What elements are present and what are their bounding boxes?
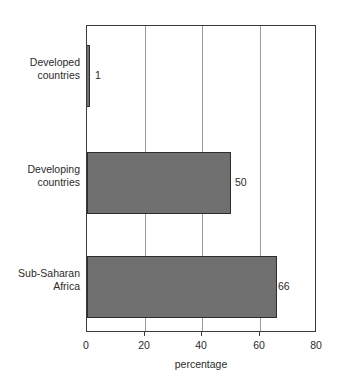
category-label-line1: Developed: [30, 56, 80, 68]
tick-label-40: 40: [181, 339, 221, 351]
tick-label-20: 20: [124, 339, 164, 351]
tick-mark-20: [144, 332, 145, 336]
category-label-line1: Sub-Saharan: [18, 267, 80, 279]
category-label-line2: countries: [37, 176, 80, 188]
x-axis-title: percentage: [86, 358, 316, 370]
bar-sub-saharan-africa[interactable]: [87, 256, 277, 318]
category-label-sub-saharan-africa: Sub-SaharanAfrica: [0, 267, 80, 293]
tick-mark-60: [259, 332, 260, 336]
value-label-sub-saharan-africa: 66: [278, 280, 290, 292]
category-label-line1: Developing: [27, 163, 80, 175]
value-label-developed-countries: 1: [95, 69, 101, 81]
bar-chart: Developedcountries Developingcountries S…: [0, 0, 339, 387]
value-label-developing-countries: 50: [235, 176, 247, 188]
category-label-developing-countries: Developingcountries: [0, 163, 80, 189]
tick-label-0: 0: [66, 339, 106, 351]
bar-developed-countries[interactable]: [87, 45, 90, 107]
category-label-developed-countries: Developedcountries: [0, 56, 80, 82]
bar-developing-countries[interactable]: [87, 152, 231, 214]
category-label-line2: countries: [37, 69, 80, 81]
tick-mark-40: [201, 332, 202, 336]
tick-label-80: 80: [296, 339, 336, 351]
tick-label-60: 60: [239, 339, 279, 351]
category-label-line2: Africa: [53, 280, 80, 292]
